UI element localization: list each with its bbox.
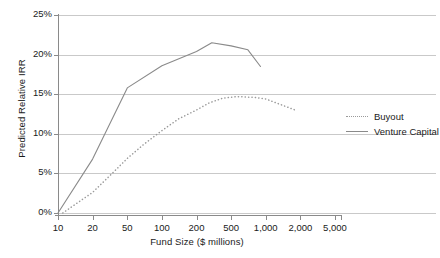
legend-label-venture-capital: Venture Capital xyxy=(374,126,439,137)
legend-label-buyout: Buyout xyxy=(374,111,404,122)
y-axis-ticks xyxy=(54,16,58,214)
legend-item-venture-capital: Venture Capital xyxy=(346,124,439,139)
data-series-layer xyxy=(58,43,295,213)
chart-legend: Buyout Venture Capital xyxy=(346,109,439,139)
series-line-venture-capital xyxy=(58,43,261,213)
legend-swatch-dotted-icon xyxy=(346,112,368,122)
legend-swatch-solid-icon xyxy=(346,127,368,137)
legend-item-buyout: Buyout xyxy=(346,109,439,124)
chart-container: Predicted Relative IRR Fund Size ($ mill… xyxy=(0,0,440,258)
axis-lines xyxy=(55,14,342,216)
x-axis-ticks xyxy=(59,216,342,220)
series-line-buyout xyxy=(63,97,295,213)
